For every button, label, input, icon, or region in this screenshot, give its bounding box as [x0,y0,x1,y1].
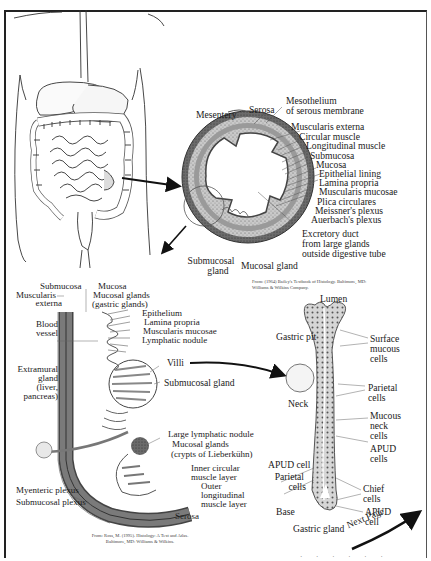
credit-bailey-2: Williams & Wilkins Company. [252,285,392,291]
label-gg-neck: Neck [288,399,308,409]
label-gg-mucous-neck-3: cells [370,431,388,441]
label-gg-lumen: Lumen [320,294,347,304]
label-ws-serosa: Serosa [175,512,199,522]
label-mucosal-gland: Mucosal gland [241,261,298,271]
label-auerbachs-plexus: Auerbach's plexus [311,215,381,225]
label-ws-villi: Villi [167,358,184,368]
label-mesothelium-2: of serous membrane [286,106,364,116]
label-ws-outer-long-3: muscle layer [201,500,247,510]
label-gg-apud-l: APUD cell [268,460,310,470]
label-gg-chief-2: cells [363,494,381,504]
label-gg-gastric-pit: Gastric pit [276,332,316,342]
label-ws-extramural-4: pancreas) [8,392,58,402]
label-gg-gastric-gland: Gastric gland [293,524,344,534]
label-mesentery: Mesentery [196,110,237,120]
label-gg-surface-mucous-3: cells [370,354,388,364]
label-ws-lymphatic-nodule: Lymphatic nodule [142,336,207,346]
label-submucosal-gland-2: gland [196,266,240,276]
label-ws-crypts-2: (crypts of Lieberkühn) [171,450,252,460]
label-ws-myenteric-plexus: Myenteric plexus [16,486,79,496]
label-excretory-duct-3: outside digestive tube [302,249,386,259]
label-ws-submucosal-gland: Submucosal gland [164,378,235,388]
label-gg-parietal-r-2: cells [368,393,386,403]
label-gg-parietal-l-2: cells [262,482,306,492]
label-ws-blood-vessel-2: vessel [20,329,58,339]
credit-ross-2: Baltimore, MD: Williams & Wilkins. [60,539,220,545]
label-ws-submucosal-plexus: Submucosal plexus [16,498,86,508]
label-gg-apud-r-2: cells [370,454,388,464]
torso-diagram [14,10,164,268]
label-ws-muscularis-externa-2: externa [10,299,62,309]
label-ws-mucosal-glands-2: (gastric glands) [92,300,148,310]
cut-off-text-fragment: · · · · · · [300,553,389,561]
label-serosa: Serosa [249,105,275,115]
label-gg-base: Base [276,507,295,517]
